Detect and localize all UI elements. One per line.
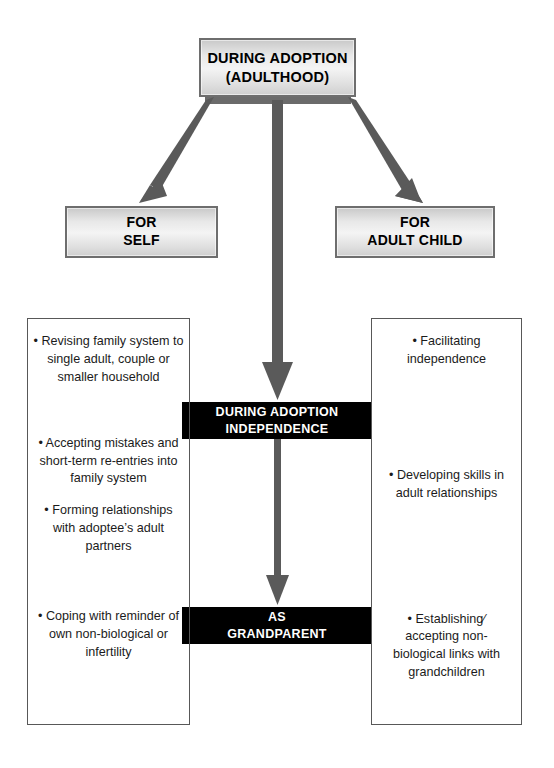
spacer [28,556,189,608]
stage-independence-line-2: INDEPENDENCE [216,421,339,437]
header-line-2: (ADULTHOOD) [207,68,347,87]
header-line-1: DURING ADOPTION [207,49,347,68]
stage-grandparent-line-1: AS [227,609,327,625]
stage-banner-during-adoption-independence: DURING ADOPTION INDEPENDENCE [182,402,372,439]
spacer [28,387,189,435]
arrow-to-for-self [139,97,214,203]
list-item: • Revising family system to single adult… [28,333,189,387]
arrow-to-independence [262,100,293,400]
stage-independence-line-1: DURING ADOPTION [216,404,339,420]
adoption-lifecycle-diagram: DURING ADOPTION (ADULTHOOD) FOR SELF FOR… [0,0,554,768]
list-item: • Establishing⁄ accepting non-biological… [372,611,521,683]
branch-box-for-self: FOR SELF [65,206,218,258]
top-box-base-bar [205,97,351,104]
spacer [28,488,189,502]
branch-box-for-adult-child-text: FOR ADULT CHILD [367,214,462,250]
for-self-line-2: SELF [123,232,160,250]
stage-banner-as-grandparent: AS GRANDPARENT [182,607,372,644]
list-item: • Facilitating independence [372,333,521,369]
header-box-text: DURING ADOPTION (ADULTHOOD) [207,49,347,86]
list-item: • Coping with reminder of own non-biolog… [28,608,189,662]
task-column-for-adult-child: • Facilitating independence • Developing… [371,318,522,725]
list-item: • Developing skills in adult relationshi… [372,467,521,503]
spacer [372,369,521,467]
list-item: • Forming relationships with adoptee’s a… [28,502,189,556]
for-adult-child-line-2: ADULT CHILD [367,232,462,250]
list-item: • Accepting mistakes and short-term re-e… [28,435,189,489]
stage-banner-text: DURING ADOPTION INDEPENDENCE [216,404,339,437]
branch-box-for-adult-child: FOR ADULT CHILD [335,206,495,258]
stage-grandparent-line-2: GRANDPARENT [227,626,327,642]
for-self-line-1: FOR [123,214,160,232]
stage-banner-text: AS GRANDPARENT [227,609,327,642]
spacer [372,503,521,611]
arrow-to-for-adult-child [348,97,423,203]
task-column-for-self: • Revising family system to single adult… [27,318,190,725]
arrow-to-grandparent [266,439,289,605]
header-box-during-adoption-adulthood: DURING ADOPTION (ADULTHOOD) [199,38,356,97]
branch-box-for-self-text: FOR SELF [123,214,160,250]
for-adult-child-line-1: FOR [367,214,462,232]
